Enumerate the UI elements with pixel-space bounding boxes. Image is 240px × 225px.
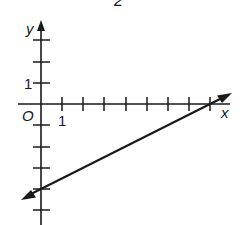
x-tick-label-1: 1 (58, 112, 66, 129)
coordinate-plane: 2 y 1 O 1 x (0, 0, 240, 225)
line-arrow-right-icon (217, 93, 232, 103)
y-axis-label: y (25, 20, 35, 37)
y-tick-label-1: 1 (24, 75, 32, 92)
origin-label: O (22, 107, 34, 124)
partial-figure-label: 2 (113, 0, 123, 9)
x-axis-label: x (220, 104, 229, 121)
y-axis-arrow-icon (37, 20, 45, 31)
